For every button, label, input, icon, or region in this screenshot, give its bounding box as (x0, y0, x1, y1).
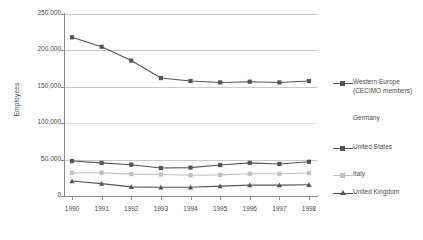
y-tick-mark (61, 160, 65, 161)
y-tick-label: 0 (3, 192, 61, 199)
legend-item-label: United Kingdom (353, 188, 399, 197)
x-tick-mark (220, 196, 221, 200)
gridline-50000 (64, 160, 317, 161)
y-tick-label: 250,000 (3, 10, 61, 17)
legend-item-italy[interactable]: Italy (333, 170, 423, 180)
gridline-250000 (64, 14, 317, 15)
y-tick-label: 100,000 (3, 119, 61, 126)
legend-item-label: Germany (353, 114, 380, 123)
chart-legend: Western Europe (CECIMO members)GermanyUn… (333, 0, 423, 240)
legend-swatch-icon (333, 79, 353, 88)
legend-swatch-icon (333, 189, 353, 198)
plot-area (64, 14, 317, 196)
legend-item-western-europe[interactable]: Western Europe (CECIMO members) (333, 78, 423, 95)
legend-item-label: United States (353, 143, 392, 152)
x-tick-mark (309, 196, 310, 200)
legend-item-united-kingdom[interactable]: United Kingdom (333, 188, 423, 198)
y-tick-mark (61, 123, 65, 124)
legend-item-germany[interactable]: Germany (333, 114, 423, 124)
y-tick-mark (61, 14, 65, 15)
legend-item-label: Western Europe (CECIMO members) (353, 78, 412, 95)
legend-item-united-states[interactable]: United States (333, 143, 423, 153)
y-tick-mark (61, 50, 65, 51)
x-tick-mark (131, 196, 132, 200)
y-tick-mark (61, 196, 65, 197)
y-tick-label: 50,000 (3, 156, 61, 163)
x-tick-label: 1998 (289, 205, 329, 212)
legend-swatch-icon (333, 144, 353, 153)
gridline-100000 (64, 123, 317, 124)
x-tick-mark (161, 196, 162, 200)
x-tick-mark (191, 196, 192, 200)
x-tick-mark (72, 196, 73, 200)
legend-item-label: Italy (353, 170, 365, 179)
chart-container: Employees 199019911992199319941995199619… (0, 0, 423, 240)
y-tick-mark (61, 87, 65, 88)
x-tick-mark (279, 196, 280, 200)
x-tick-mark (102, 196, 103, 200)
gridline-150000 (64, 87, 317, 88)
y-tick-label: 150,000 (3, 83, 61, 90)
y-tick-label: 200,000 (3, 46, 61, 53)
legend-swatch-icon (333, 171, 353, 180)
gridline-200000 (64, 50, 317, 51)
x-tick-mark (250, 196, 251, 200)
legend-swatch-icon (333, 115, 353, 124)
